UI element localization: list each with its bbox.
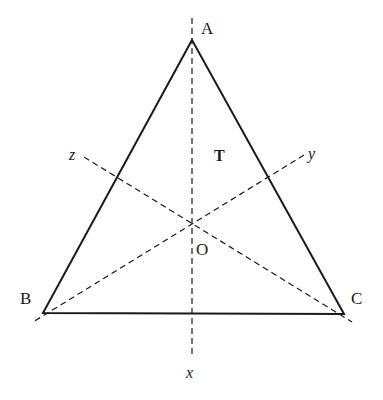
- axis-label-y: y: [306, 145, 316, 163]
- triangle-abc: [43, 40, 344, 314]
- equilateral-triangle-symmetry-diagram: A B C O T x y z: [0, 0, 383, 400]
- vertex-label-a: A: [201, 19, 214, 38]
- vertex-label-c: C: [351, 289, 362, 308]
- vertex-label-b: B: [20, 289, 31, 308]
- axis-label-z: z: [68, 146, 76, 163]
- axis-z-line: [84, 157, 352, 322]
- axis-label-x: x: [185, 364, 193, 381]
- center-label-o: O: [196, 240, 208, 259]
- region-label-t: T: [214, 147, 225, 164]
- axis-y-line: [33, 155, 304, 322]
